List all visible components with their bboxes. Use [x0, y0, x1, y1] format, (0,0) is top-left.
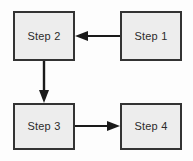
node-step-2-label: Step 2 — [27, 31, 60, 42]
node-step-3-label: Step 3 — [27, 121, 60, 132]
node-step-1-label: Step 1 — [134, 31, 167, 42]
node-step-4-label: Step 4 — [134, 121, 167, 132]
node-step-1[interactable]: Step 1 — [120, 11, 182, 61]
arrowhead-right-icon — [107, 121, 120, 131]
node-step-3[interactable]: Step 3 — [13, 103, 75, 150]
arrowhead-down-icon — [39, 90, 49, 103]
node-step-4[interactable]: Step 4 — [120, 103, 182, 150]
flowchart-diagram: Step 2 Step 1 Step 3 Step 4 — [0, 0, 193, 161]
connector-step3-to-step4 — [75, 121, 120, 131]
node-step-2[interactable]: Step 2 — [13, 11, 75, 61]
connector-step2-to-step3 — [39, 61, 49, 103]
connector-step1-to-step2 — [75, 31, 120, 41]
arrowhead-left-icon — [75, 31, 88, 41]
